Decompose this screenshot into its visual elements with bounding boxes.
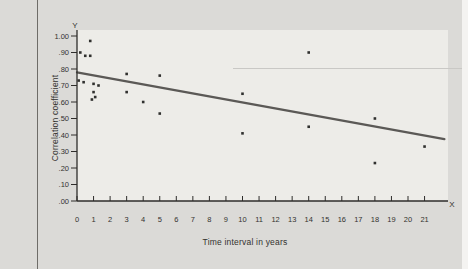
x-tick-label: 9 (224, 215, 228, 224)
y-tick-label: .20 (59, 164, 69, 173)
data-point (125, 91, 128, 94)
y-axis-letter: Y (72, 21, 77, 30)
x-tick-label: 6 (174, 215, 178, 224)
y-tick-label: .40 (59, 131, 69, 140)
data-point (423, 145, 426, 148)
x-tick-label: 14 (305, 215, 313, 224)
x-tick-label: 4 (141, 215, 145, 224)
x-tick-label: 13 (288, 215, 296, 224)
data-point (89, 40, 92, 43)
x-tick-label: 7 (191, 215, 195, 224)
data-point (158, 112, 161, 115)
data-point (374, 162, 377, 165)
y-tick-label: .80 (59, 65, 69, 74)
data-point (97, 84, 100, 87)
scatter-chart: 1.00.90.80.70.60.50.40.30.20.10.00012345… (0, 0, 468, 269)
y-tick-label: .00 (59, 197, 69, 206)
data-point (125, 73, 128, 76)
x-tick-label: 1 (91, 215, 95, 224)
data-point (241, 132, 244, 135)
data-point (241, 92, 244, 95)
x-tick-label: 3 (125, 215, 129, 224)
data-point (94, 96, 97, 99)
x-tick-label: 12 (271, 215, 279, 224)
x-axis-title: Time interval in years (203, 237, 288, 247)
data-point (79, 51, 82, 54)
x-tick-label: 20 (404, 215, 412, 224)
x-tick-label: 10 (238, 215, 246, 224)
x-axis-letter: X (449, 200, 454, 209)
data-point (92, 91, 95, 94)
x-tick-label: 16 (338, 215, 346, 224)
textbook-figure-page: 1.00.90.80.70.60.50.40.30.20.10.00012345… (0, 0, 468, 269)
trend-line (77, 72, 444, 139)
data-point (307, 51, 310, 54)
y-tick-label: 1.00 (54, 32, 69, 41)
data-point (84, 55, 87, 58)
data-point (142, 101, 145, 104)
y-tick-label: .60 (59, 98, 69, 107)
data-point (89, 55, 92, 58)
y-tick-label: .90 (59, 48, 69, 57)
data-point (77, 79, 80, 82)
x-tick-label: 15 (321, 215, 329, 224)
x-tick-label: 0 (75, 215, 79, 224)
data-point (307, 125, 310, 128)
y-axis-title: Correlation coefficient (50, 75, 60, 162)
data-point (374, 117, 377, 120)
x-tick-label: 17 (354, 215, 362, 224)
y-tick-label: .50 (59, 114, 69, 123)
x-tick-label: 5 (158, 215, 162, 224)
y-tick-label: .10 (59, 180, 69, 189)
y-tick-label: .70 (59, 81, 69, 90)
data-point (82, 81, 85, 84)
x-tick-label: 8 (207, 215, 211, 224)
data-point (158, 74, 161, 77)
x-tick-label: 2 (108, 215, 112, 224)
x-tick-label: 11 (255, 215, 263, 224)
x-tick-label: 21 (420, 215, 428, 224)
y-tick-label: .30 (59, 147, 69, 156)
data-point (91, 98, 94, 101)
x-tick-label: 18 (371, 215, 379, 224)
data-point (92, 83, 95, 86)
x-tick-label: 19 (387, 215, 395, 224)
